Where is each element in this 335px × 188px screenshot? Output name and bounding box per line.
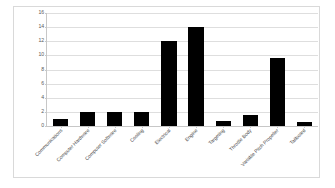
- chart-frame: 1614121086420 CommunicationsComputer Har…: [13, 6, 320, 178]
- bar-slot: [264, 13, 291, 126]
- x-axis-label-tailboard: Tailboard: [289, 128, 307, 146]
- bar-slot: [74, 13, 101, 126]
- bar[interactable]: [188, 27, 203, 126]
- bar[interactable]: [53, 119, 68, 126]
- y-axis-tick-labels: 1614121086420: [30, 13, 46, 126]
- bar-slot: [291, 13, 318, 126]
- x-axis-label-targeting: Targeting: [208, 128, 226, 146]
- bar-slot: [47, 13, 74, 126]
- plot-wrapper: 1614121086420: [30, 13, 317, 126]
- y-axis-tick-14: 14: [38, 25, 44, 30]
- y-axis-tick-10: 10: [38, 53, 44, 58]
- bar-slot: [237, 13, 264, 126]
- bar-slot: [182, 13, 209, 126]
- bar-slot: [155, 13, 182, 126]
- plot-area: [46, 13, 318, 127]
- bar[interactable]: [107, 112, 122, 126]
- y-axis-tick-4: 4: [41, 95, 44, 100]
- y-axis-tick-6: 6: [41, 81, 44, 86]
- x-axis-label-engine: Engine: [184, 128, 198, 142]
- bar-slot: [128, 13, 155, 126]
- y-axis-tick-12: 12: [38, 39, 44, 44]
- y-axis-tick-0: 0: [41, 123, 44, 128]
- x-axis-label-electrical: Electrical: [154, 128, 172, 146]
- bar[interactable]: [80, 112, 95, 126]
- bar-series: [47, 13, 318, 126]
- bar-slot: [101, 13, 128, 126]
- y-axis-tick-2: 2: [41, 109, 44, 114]
- x-axis-label-cooling: Cooling: [129, 128, 144, 143]
- x-axis-label-throttle-body: Throttle Body: [229, 128, 253, 152]
- bar[interactable]: [243, 115, 258, 126]
- bar-slot: [210, 13, 237, 126]
- x-axis-category-labels: CommunicationsComputer HardwareComputer …: [46, 127, 317, 183]
- bar[interactable]: [161, 41, 176, 126]
- bar[interactable]: [134, 112, 149, 126]
- y-axis-tick-8: 8: [41, 67, 44, 72]
- bar[interactable]: [270, 58, 285, 127]
- y-axis-tick-16: 16: [38, 10, 44, 15]
